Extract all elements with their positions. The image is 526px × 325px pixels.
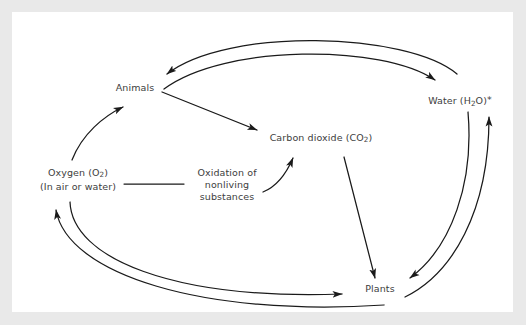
node-water: Water (H2O)* — [410, 94, 510, 109]
edge-plants-to-water — [405, 117, 489, 297]
node-water-footnote-marker: * — [487, 94, 492, 105]
edge-carbon-to-plants — [344, 157, 375, 278]
node-oxygen: Oxygen (O2) (In air or water) — [20, 167, 136, 193]
node-oxidation-line2: nonliving — [180, 179, 274, 191]
node-oxygen-label-tail: ) — [104, 167, 108, 178]
node-oxygen-label: Oxygen (O — [48, 167, 100, 178]
edge-oxygen-to-animals — [72, 107, 123, 160]
node-oxygen-line2: (In air or water) — [20, 181, 136, 193]
node-plants-label: Plants — [365, 283, 395, 294]
node-plants: Plants — [350, 283, 410, 295]
node-oxidation: Oxidation of nonliving substances — [180, 167, 274, 202]
edge-plants-to-oxygen — [56, 210, 384, 307]
node-water-label-tail: O) — [476, 95, 487, 106]
diagram-canvas: Animals Water (H2O)* Carbon dioxide (CO2… — [12, 12, 513, 312]
edge-oxygen-to-plants — [70, 202, 342, 295]
edge-water-to-plants — [410, 112, 469, 278]
node-animals: Animals — [100, 82, 170, 94]
node-carbon-dioxide: Carbon dioxide (CO2) — [256, 132, 386, 146]
node-oxidation-line1: Oxidation of — [180, 167, 274, 179]
node-oxygen-line1: Oxygen (O2) — [20, 167, 136, 181]
edge-animals-to-water — [164, 54, 435, 89]
diagram-arrows — [12, 12, 513, 312]
edge-animals-to-carbon — [162, 92, 257, 130]
node-oxidation-line3: substances — [180, 191, 274, 203]
node-carbon-dioxide-label: Carbon dioxide (CO — [270, 132, 364, 143]
node-animals-label: Animals — [116, 82, 155, 93]
node-carbon-dioxide-label-tail: ) — [369, 132, 373, 143]
node-water-label: Water (H — [428, 95, 471, 106]
